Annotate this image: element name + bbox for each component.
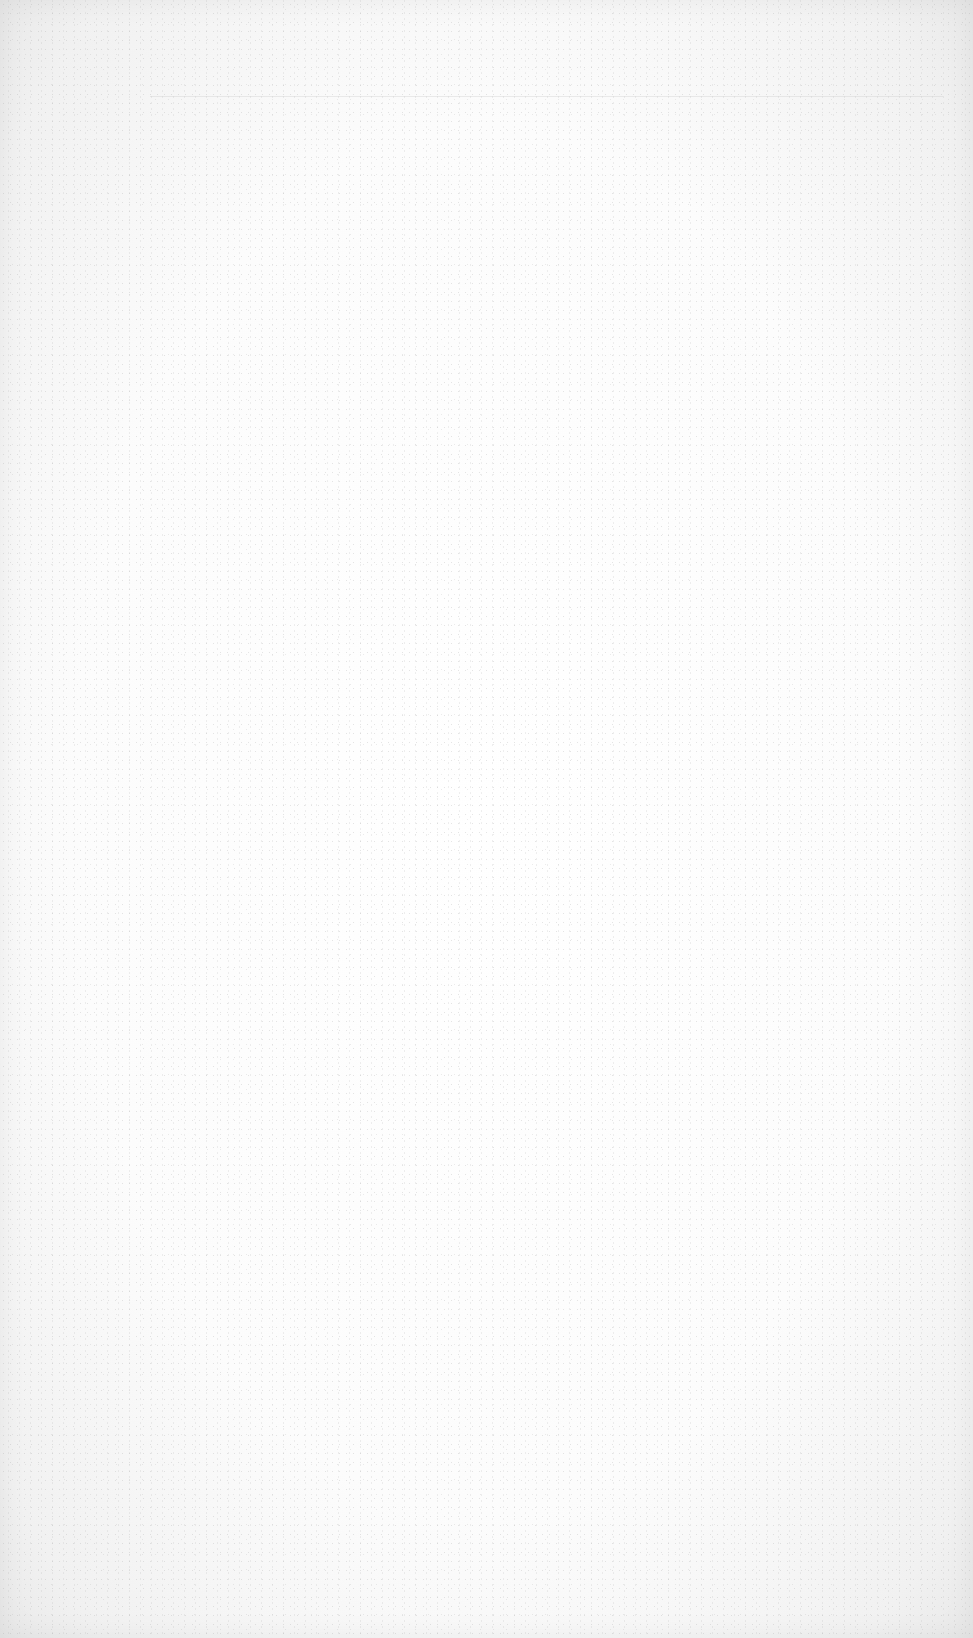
noise-texture	[0, 0, 973, 1638]
faint-divider	[150, 96, 943, 97]
blank-page	[0, 0, 973, 1638]
